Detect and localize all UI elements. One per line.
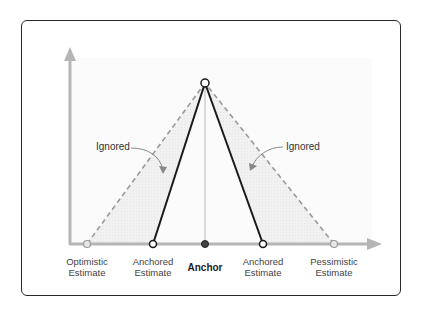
y-axis-arrow-icon bbox=[64, 47, 76, 61]
label-optimistic-estimate: Optimistic Estimate bbox=[66, 256, 108, 278]
peak-point bbox=[201, 79, 209, 87]
optimistic-point bbox=[84, 241, 91, 248]
callout-right-label: Ignored bbox=[286, 141, 320, 152]
anchored-left-point bbox=[150, 241, 157, 248]
label-anchored-estimate-right: Anchored Estimate bbox=[243, 256, 284, 278]
anchor-point bbox=[202, 241, 209, 248]
label-anchor: Anchor bbox=[188, 262, 223, 273]
x-axis-arrow-icon bbox=[367, 238, 382, 250]
anchored-right-point bbox=[260, 241, 267, 248]
label-anchored-estimate-left: Anchored Estimate bbox=[133, 256, 174, 278]
label-pessimistic-estimate: Pessimistic Estimate bbox=[310, 256, 358, 278]
callout-left-label: Ignored bbox=[96, 141, 130, 152]
pessimistic-point bbox=[331, 241, 338, 248]
